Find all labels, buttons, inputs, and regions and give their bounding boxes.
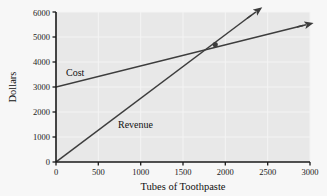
y-tick-label: 5000 bbox=[33, 32, 50, 42]
x-tick-label: 2500 bbox=[259, 167, 276, 177]
y-tick-label: 2000 bbox=[33, 107, 50, 117]
x-axis-title: Tubes of Toothpaste bbox=[140, 181, 225, 192]
y-tick-label: 6000 bbox=[33, 8, 50, 18]
break-even-chart: 0 1000 2000 3000 4000 5000 6000 0 500 10… bbox=[0, 0, 327, 196]
x-tick-label: 1000 bbox=[132, 167, 149, 177]
y-tick-label: 1000 bbox=[33, 132, 50, 142]
y-tick-label: 0 bbox=[46, 157, 50, 167]
x-tick-label: 3000 bbox=[302, 167, 319, 177]
chart-canvas: 0 1000 2000 3000 4000 5000 6000 0 500 10… bbox=[0, 0, 327, 196]
y-tick-label: 4000 bbox=[33, 57, 50, 67]
x-tick-label: 2000 bbox=[217, 167, 234, 177]
cost-series-label: Cost bbox=[66, 67, 85, 78]
x-tick-label: 1500 bbox=[175, 167, 192, 177]
y-tick-label: 3000 bbox=[33, 82, 50, 92]
x-tick-label: 500 bbox=[92, 167, 105, 177]
revenue-series-label: Revenue bbox=[118, 119, 154, 130]
y-axis-title: Dollars bbox=[7, 72, 18, 103]
x-tick-label: 0 bbox=[54, 167, 58, 177]
break-even-point-marker bbox=[213, 42, 218, 47]
